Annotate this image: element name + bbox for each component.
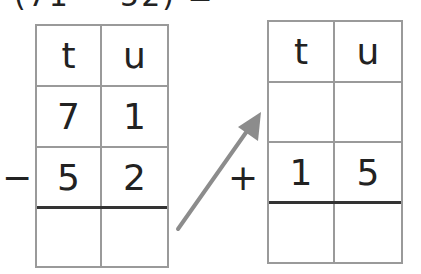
arrow-icon	[0, 0, 421, 274]
